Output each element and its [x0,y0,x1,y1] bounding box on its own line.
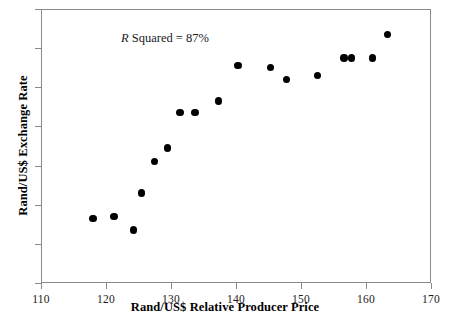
x-axis-tick [236,283,237,289]
data-point [89,215,96,222]
data-point [176,109,183,116]
data-point [234,62,241,69]
y-axis-tick [35,126,41,127]
x-axis-title: Rand/US$ Relative Producer Price [0,300,450,315]
data-point [164,144,171,151]
y-axis-tick [35,205,41,206]
x-axis-tick [366,283,367,289]
x-axis-tick [41,283,42,289]
x-axis-tick [106,283,107,289]
y-axis-tick [35,87,41,88]
data-point [138,189,145,196]
y-axis-title: Rand/US$ Exchange Rate [16,31,31,261]
y-axis-tick [35,9,41,10]
y-axis-tick [35,166,41,167]
data-point [130,226,137,233]
data-point [191,109,198,116]
data-point [348,54,355,61]
data-point [151,158,158,165]
scatter-plot-figure: 2.52.72.93.13.33.53.73.9 110120130140150… [0,0,450,320]
data-point [110,213,117,220]
data-point [369,54,376,61]
annotation-r-symbol: R [121,31,129,45]
x-axis-tick [301,283,302,289]
data-point [267,64,274,71]
data-point [314,72,321,79]
data-point [384,31,391,38]
annotation-text: Squared = 87% [129,31,209,45]
y-axis-tick [35,244,41,245]
data-point [283,76,290,83]
data-point [215,97,222,104]
y-axis-tick [35,48,41,49]
plot-area: 2.52.72.93.13.33.53.73.9 110120130140150… [41,9,431,283]
x-axis-tick [431,283,432,289]
x-axis-tick [171,283,172,289]
data-point [340,54,347,61]
r-squared-annotation: R Squared = 87% [121,31,209,46]
